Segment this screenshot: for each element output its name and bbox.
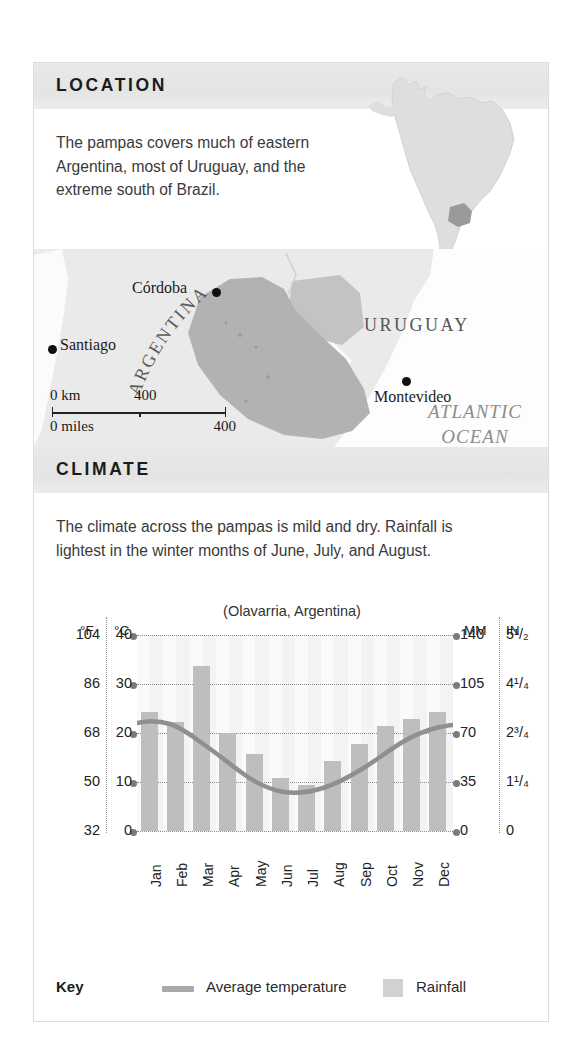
month-label-aug: Aug	[331, 862, 347, 887]
month-label-feb: Feb	[174, 863, 190, 887]
regional-map: ARGENTINA Córdoba Santiago Montevideo UR…	[34, 249, 548, 447]
month-label-mar: Mar	[200, 863, 216, 887]
axis-separator-left	[106, 617, 107, 833]
ocean-label-line2: OCEAN	[410, 424, 540, 447]
chart-legend: Key Average temperature Rainfall	[56, 977, 524, 999]
location-description: The pampas covers much of eastern Argent…	[56, 131, 326, 202]
south-america-inset-map	[364, 71, 544, 271]
climate-body: The climate across the pampas is mild an…	[34, 493, 548, 1021]
tick-c-30: 30	[110, 675, 132, 691]
tick-in-4-quarter: 4¹/₄	[506, 675, 529, 691]
south-america-shape-icon	[364, 71, 544, 271]
month-label-jun: Jun	[279, 864, 295, 887]
month-label-may: May	[253, 861, 269, 887]
tick-in-0: 0	[506, 822, 514, 838]
climate-description: The climate across the pampas is mild an…	[56, 515, 506, 563]
tick-mm-140: 140	[460, 626, 484, 642]
gridline-dot-right	[453, 633, 460, 640]
tick-mm-0: 0	[460, 822, 468, 838]
tick-mm-105: 105	[460, 675, 484, 691]
tick-f-50: 50	[44, 773, 100, 789]
tick-f-32: 32	[44, 822, 100, 838]
ocean-label-atlantic: ATLANTIC OCEAN	[410, 399, 540, 447]
country-label-uruguay: URUGUAY	[364, 315, 470, 336]
chart-plot-area	[137, 635, 453, 831]
chart-title: (Olavarria, Argentina)	[44, 603, 540, 619]
tick-c-40: 40	[110, 626, 132, 642]
temperature-line-series	[137, 635, 453, 831]
tick-mm-70: 70	[460, 724, 476, 740]
tick-mm-35: 35	[460, 773, 476, 789]
tick-f-104: 104	[44, 626, 100, 642]
legend-label-rainfall: Rainfall	[416, 978, 466, 995]
climate-title: CLIMATE	[56, 459, 151, 480]
month-label-jan: Jan	[148, 864, 164, 887]
gridline-0c-0mm	[137, 831, 453, 832]
month-label-dec: Dec	[436, 862, 452, 887]
tick-f-68: 68	[44, 724, 100, 740]
scale-miles-end: 400	[214, 418, 237, 435]
climate-chart: (Olavarria, Argentina) °F °C MM IN	[44, 601, 540, 901]
tick-c-10: 10	[110, 773, 132, 789]
fact-card: LOCATION The pampas covers much of easte…	[33, 62, 549, 1022]
map-scale-bar: 0 km 400 0 miles 400	[50, 387, 230, 437]
scale-tick-mid	[139, 412, 141, 417]
scale-km-label: 0 km	[50, 387, 80, 404]
month-label-oct: Oct	[384, 865, 400, 887]
city-dot-cordoba	[212, 288, 221, 297]
city-label-santiago: Santiago	[60, 336, 116, 354]
scale-bar-line	[52, 407, 226, 417]
month-label-sep: Sep	[358, 862, 374, 887]
city-dot-santiago	[48, 345, 57, 354]
month-label-nov: Nov	[410, 862, 426, 887]
location-body: The pampas covers much of eastern Argent…	[34, 109, 548, 249]
legend-title: Key	[56, 978, 84, 995]
gridline-dot-right	[453, 829, 460, 836]
gridline-dot-right	[453, 731, 460, 738]
scale-row-km: 0 km 400	[50, 387, 230, 406]
city-dot-montevideo	[402, 377, 411, 386]
month-label-apr: Apr	[226, 865, 242, 887]
axis-separator-right	[499, 617, 500, 833]
tick-c-20: 20	[110, 724, 132, 740]
ocean-label-line1: ATLANTIC	[410, 399, 540, 424]
gridline-dot-right	[453, 682, 460, 689]
legend-swatch-temperature	[162, 986, 194, 992]
legend-swatch-rainfall	[383, 979, 403, 997]
tick-in-5-half: 5¹/₂	[506, 626, 529, 642]
climate-header-band: CLIMATE	[34, 447, 548, 493]
city-label-cordoba: Córdoba	[132, 279, 187, 297]
legend-label-temperature: Average temperature	[206, 978, 347, 995]
gridline-dot-right	[453, 780, 460, 787]
tick-c-0: 0	[110, 822, 132, 838]
tick-f-86: 86	[44, 675, 100, 691]
scale-miles-label: 0 miles	[50, 418, 94, 435]
scale-km-mid: 400	[134, 387, 157, 404]
tick-in-2-three-quarter: 2³/₄	[506, 724, 529, 740]
scale-row-miles: 0 miles 400	[50, 418, 230, 437]
location-title: LOCATION	[56, 75, 167, 96]
month-label-jul: Jul	[305, 869, 321, 887]
tick-in-1-quarter: 1¹/₄	[506, 773, 529, 789]
